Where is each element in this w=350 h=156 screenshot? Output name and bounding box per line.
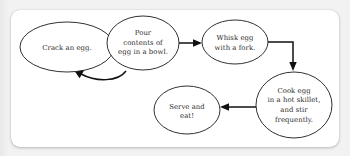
serve-and-eat-label-line-0: Serve and <box>169 103 205 111</box>
cook-egg-label-line-3: frequently. <box>275 116 313 124</box>
pour-contents-label-line-1: contents of <box>123 39 163 47</box>
node-whisk-egg[interactable]: Whisk egg with a fork. <box>202 20 268 64</box>
whisk-egg-label-line-1: with a fork. <box>215 44 256 52</box>
flowchart-svg: Crack an egg. Pour contents of egg in a … <box>0 0 350 156</box>
flowchart-canvas: Crack an egg. Pour contents of egg in a … <box>0 0 350 156</box>
whisk-egg-label-line-0: Whisk egg <box>217 34 255 42</box>
serve-and-eat-label-line-1: eat! <box>180 112 194 120</box>
node-crack-an-egg[interactable]: Crack an egg. <box>20 22 114 72</box>
pour-contents-label-line-2: egg in a bowl. <box>118 48 168 56</box>
arrow-pour-to-whisk <box>179 39 202 46</box>
arrow-whisk-to-cook <box>268 42 297 71</box>
pour-contents-label-line-0: Pour <box>135 29 152 37</box>
arrow-cook-to-serve <box>220 103 256 110</box>
node-pour-contents[interactable]: Pour contents of egg in a bowl. <box>107 16 179 70</box>
node-cook-egg[interactable]: Cook egg in a hot skillet, and stir freq… <box>256 72 332 138</box>
cook-egg-label-line-1: in a hot skillet, <box>268 96 321 104</box>
cook-egg-label-line-0: Cook egg <box>277 87 311 95</box>
node-serve-and-eat[interactable]: Serve and eat! <box>154 86 220 134</box>
crack-an-egg-label-line-0: Crack an egg. <box>42 44 91 52</box>
cook-egg-label-line-2: and stir <box>280 106 308 114</box>
